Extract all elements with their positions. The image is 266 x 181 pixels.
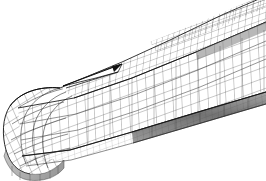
mesh-diagram [0, 0, 266, 181]
figure-container: Fig. 2 [0, 0, 266, 181]
caption-fragment [0, 175, 266, 181]
